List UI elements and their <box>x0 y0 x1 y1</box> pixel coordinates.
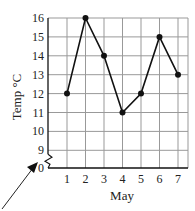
y-tick-label: 13 <box>32 68 44 82</box>
data-point <box>175 72 181 78</box>
x-axis-label: May <box>110 188 134 203</box>
x-tick-label: 2 <box>83 172 89 186</box>
axis-break-icon <box>45 154 52 168</box>
data-point <box>83 15 89 21</box>
y-tick-label: 9 <box>38 143 44 157</box>
y-tick-label: 12 <box>32 87 44 101</box>
y-tick-label: 16 <box>32 11 44 25</box>
y-tick-label: 11 <box>32 106 44 120</box>
x-tick-label: 6 <box>157 172 163 186</box>
x-tick-label: 5 <box>138 172 144 186</box>
data-point <box>64 91 70 97</box>
data-point <box>101 53 107 59</box>
y-tick-labels: 0910111213141516 <box>32 11 44 175</box>
y-tick-label: 15 <box>32 30 44 44</box>
x-tick-label: 4 <box>120 172 126 186</box>
arrow-icon <box>2 162 38 209</box>
y-axis-label: Temp °C <box>9 74 24 121</box>
y-tick-label: 14 <box>32 49 44 63</box>
x-tick-label: 3 <box>101 172 107 186</box>
data-point <box>157 34 163 40</box>
data-point <box>120 110 126 116</box>
y-tick-label: 10 <box>32 124 44 138</box>
x-tick-label: 7 <box>175 172 181 186</box>
x-tick-labels: 1234567 <box>64 172 181 186</box>
line-chart: 09101112131415161234567MayTemp °C <box>0 0 195 211</box>
x-tick-label: 1 <box>64 172 70 186</box>
data-point <box>138 91 144 97</box>
y-tick-label: 0 <box>38 161 44 175</box>
